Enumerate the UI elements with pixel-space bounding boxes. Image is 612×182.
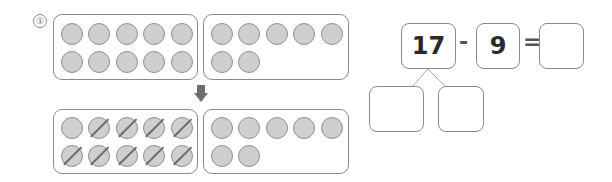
answer-box[interactable]: [539, 23, 584, 69]
subtrahend-box: 9: [476, 23, 520, 69]
decomposition-right-box[interactable]: [438, 86, 484, 132]
decomposition-left-box[interactable]: [369, 86, 424, 132]
decomposition-lines: [0, 0, 612, 182]
minuend-box: 17: [401, 23, 456, 69]
minus-sign: -: [459, 29, 468, 54]
